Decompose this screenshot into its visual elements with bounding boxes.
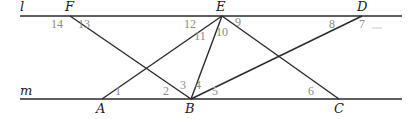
- angle-label-11: 11: [194, 29, 206, 43]
- angle-label-7: 7: [359, 17, 365, 31]
- angle-label-5: 5: [212, 84, 218, 98]
- angle-label-12: 12: [184, 17, 196, 31]
- line-label-l: l: [20, 0, 24, 14]
- point-label-F: F: [64, 0, 75, 14]
- angle-label-6: 6: [308, 84, 314, 98]
- angle-label-4: 4: [195, 78, 201, 92]
- angle-label-3: 3: [180, 78, 186, 92]
- parallel-lines-transversals-diagram: lm FEDABC 1234567891011121314: [0, 0, 415, 119]
- angle-labels: 1234567891011121314: [51, 15, 365, 98]
- point-label-C: C: [334, 101, 344, 116]
- angle-label-8: 8: [329, 17, 335, 31]
- line-labels: lm: [20, 0, 32, 98]
- angle-label-10: 10: [216, 25, 228, 39]
- angle-label-14: 14: [51, 17, 63, 31]
- point-label-B: B: [184, 101, 195, 116]
- angle-label-9: 9: [235, 15, 241, 29]
- angle-label-1: 1: [115, 84, 121, 98]
- angle-label-13: 13: [78, 17, 90, 31]
- line-label-m: m: [20, 83, 32, 98]
- point-label-A: A: [95, 101, 105, 116]
- angle-label-2: 2: [163, 84, 169, 98]
- point-label-E: E: [215, 0, 226, 14]
- point-label-D: D: [356, 0, 368, 14]
